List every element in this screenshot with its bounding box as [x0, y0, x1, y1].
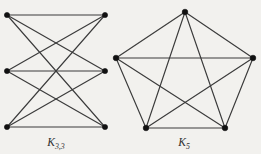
graph-edge	[225, 58, 253, 128]
graph-edge	[116, 12, 185, 58]
graph-edge	[185, 12, 253, 58]
graph-caption-k5: K5	[177, 136, 190, 151]
nonplanar-graphs-figure: K3,3K5	[0, 0, 261, 154]
graph-vertex	[113, 55, 119, 61]
graph-vertex	[102, 68, 107, 73]
edges-layer	[7, 12, 253, 128]
graph-vertex	[4, 68, 9, 73]
vertices-layer	[4, 9, 255, 131]
graph-edge	[116, 58, 146, 128]
graph-caption-subscript: 5	[186, 142, 190, 151]
graph-vertex	[4, 124, 9, 129]
graph-edge	[185, 12, 225, 128]
graph-caption-k33: K3,3	[46, 136, 65, 151]
graph-caption-subscript: 3,3	[54, 142, 65, 151]
graph-canvas: K3,3K5	[0, 0, 261, 154]
graph-vertex	[102, 124, 107, 129]
graph-vertex	[182, 9, 188, 15]
graph-vertex	[4, 12, 9, 17]
graph-edge	[116, 58, 225, 128]
graph-vertex	[143, 125, 149, 131]
graph-vertex	[250, 55, 256, 61]
captions-layer: K3,3K5	[46, 136, 190, 151]
graph-edge	[146, 12, 185, 128]
graph-vertex	[222, 125, 228, 131]
graph-edge	[146, 58, 253, 128]
graph-vertex	[102, 12, 107, 17]
